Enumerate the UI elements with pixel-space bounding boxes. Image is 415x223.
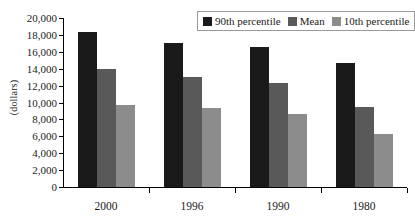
y-axis-tick [59,52,64,53]
chart-legend: 90th percentileMean10th percentile [197,11,415,31]
legend-swatch-icon [332,17,341,26]
bar [336,63,355,187]
y-axis-label: 4,000 [32,148,57,159]
legend-swatch-icon [203,17,212,26]
legend-label: Mean [300,16,325,27]
bar-group [78,18,135,187]
y-axis-label: 14,000 [27,63,57,74]
y-axis-tick [59,136,64,137]
bar-group [164,18,221,187]
y-axis-tick [59,103,64,104]
y-axis-tick [59,153,64,154]
legend-label: 10th percentile [344,16,410,27]
x-axis-label: 2000 [95,200,118,212]
y-axis-label: 2,000 [32,165,57,176]
y-axis-tick [59,86,64,87]
bar [269,83,288,187]
y-axis-label: 6,000 [32,131,57,142]
x-axis-label: 1980 [353,200,376,212]
y-axis-label: 20,000 [27,13,57,24]
y-axis-label: 12,000 [27,80,57,91]
y-axis-tick [59,119,64,120]
bar [116,105,135,187]
bar [202,108,221,187]
y-axis-tick [59,69,64,70]
bar [288,114,307,187]
bar [183,77,202,187]
y-axis-title: (dollars) [8,63,19,133]
x-axis-tick [235,188,236,193]
y-axis-tick [59,18,64,19]
x-axis-label: 1996 [181,200,204,212]
bar [97,69,116,187]
bar-group [336,18,393,187]
bar [250,47,269,187]
x-axis-tick [321,188,322,193]
legend-label: 90th percentile [215,16,281,27]
y-axis-tick [59,35,64,36]
bar-group [250,18,307,187]
y-axis-label: 16,000 [27,46,57,57]
legend-entry: 90th percentile [203,16,281,27]
bar [78,32,97,187]
x-axis-tick [149,188,150,193]
y-axis-label: 10,000 [27,97,57,108]
bar [355,107,374,187]
bar [374,134,393,187]
x-axis-tick [407,188,408,193]
plot-area: 20,00018,00016,00014,00012,00010,0008,00… [63,18,407,188]
y-axis-label: 0 [52,182,58,193]
y-axis-tick [59,170,64,171]
legend-entry: 10th percentile [332,16,410,27]
y-axis-tick [59,187,64,188]
bar [164,43,183,187]
x-axis-label: 1990 [267,200,290,212]
legend-entry: Mean [288,16,325,27]
legend-swatch-icon [288,17,297,26]
y-axis-label: 8,000 [32,114,57,125]
y-axis-label: 18,000 [27,29,57,40]
